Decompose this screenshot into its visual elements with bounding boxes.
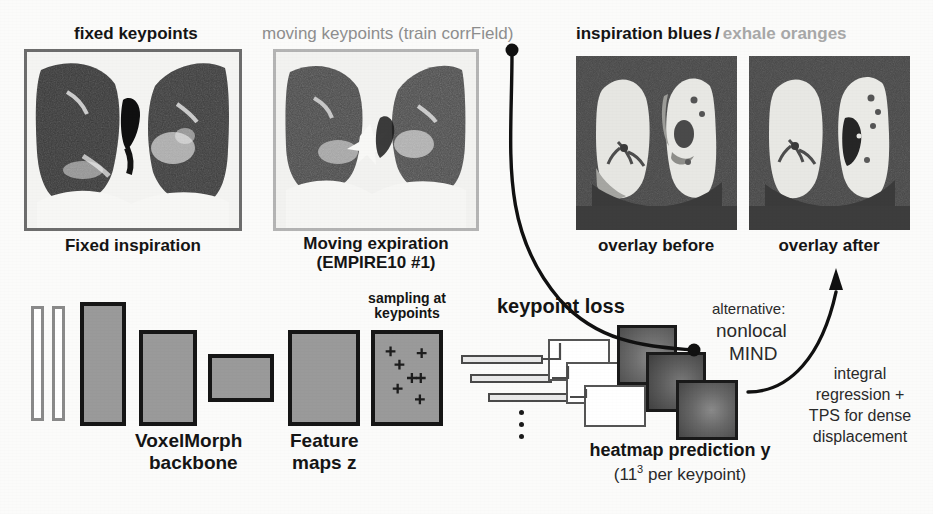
figure-canvas: fixed keypoints moving keypoints (train … [0,0,933,514]
keypoint-cross [417,348,427,358]
label-integral-line1: integral [790,365,930,383]
keypoint-cross [386,346,396,356]
header-moving-keypoints: moving keypoints (train corrField) [262,24,513,44]
ct-image-moving-expiration [276,52,476,228]
network-input-bar-1 [31,306,44,421]
label-integral-line2: regression + [790,386,930,404]
curve-start-dot-top [506,44,519,57]
header-overlay-colors: inspiration blues/exhale oranges [576,24,847,44]
panel-overlay-before [576,56,737,230]
keypoint-cross [415,394,425,404]
mlp-bar-2 [470,374,552,383]
keypoint-cross [416,373,426,383]
caption-moving-expiration-line1: Moving expiration [268,234,484,254]
network-input-bar-2 [52,306,65,421]
label-sampling-line2: keypoints [355,305,459,321]
heatmap-dim-suffix: per keypoint) [643,465,746,484]
caption-fixed-inspiration: Fixed inspiration [24,236,242,256]
label-keypoint-loss: keypoint loss [497,295,625,318]
vertical-dot-1 [519,410,524,415]
header-fixed-keypoints: fixed keypoints [74,24,198,44]
vertical-dot-2 [519,422,524,427]
network-block-feature-maps [371,330,443,426]
keypoint-cross-group [375,334,439,422]
heatmap-outline-box-3 [584,385,646,427]
header-inspiration-blues: inspiration blues [576,24,712,43]
caption-overlay-before: overlay before [570,236,742,256]
network-block-1 [80,302,126,426]
label-feature-maps-line2: maps z [292,452,356,474]
label-integral-line3: TPS for dense [790,407,930,425]
panel-moving-expiration [273,49,479,231]
label-nonlocal: nonlocal [716,320,787,342]
ct-image-fixed-inspiration [27,52,239,228]
label-mind: MIND [729,343,778,365]
vertical-dot-3 [519,434,524,439]
mlp-bar-3 [488,393,570,402]
network-block-3 [208,354,274,402]
heatmap-filled-square-3 [676,380,738,440]
label-alternative: alternative: [712,300,785,317]
label-integral-line4: displacement [790,428,930,446]
label-heatmap-dimensions: (113 per keypoint) [540,463,820,485]
keypoint-cross [395,360,405,370]
arrowhead-to-overlay-after [829,268,843,290]
network-block-2 [139,330,197,426]
label-sampling-line1: sampling at [355,290,459,306]
caption-overlay-after: overlay after [746,236,912,256]
label-feature-maps-line1: Feature [290,430,359,452]
panel-fixed-inspiration [24,49,242,231]
network-block-4 [288,330,360,426]
header-exhale-oranges: exhale oranges [723,24,847,43]
header-slash: / [712,24,723,43]
caption-moving-expiration-line2: (EMPIRE10 #1) [268,253,484,273]
heatmap-dim-prefix: (11 [614,465,637,484]
mlp-bar-1 [461,355,543,364]
label-voxelmorph-line1: VoxelMorph [135,430,242,452]
panel-overlay-after [749,56,910,230]
keypoint-cross [407,373,417,383]
label-voxelmorph-line2: backbone [149,452,238,474]
keypoint-cross [393,384,403,394]
label-heatmap-prediction: heatmap prediction y [540,440,820,461]
